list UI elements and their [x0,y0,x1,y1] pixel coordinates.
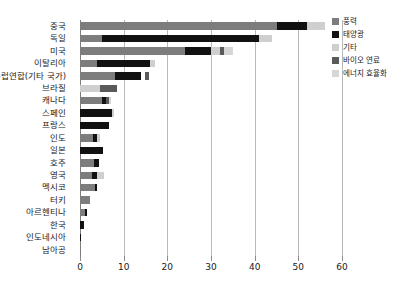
bar-segment [307,22,324,30]
bar-segment [115,72,141,80]
bar-segment [211,47,220,55]
tick-mark [167,256,168,261]
legend-swatch-biofuel [332,57,339,64]
bar-row [80,196,90,204]
bar-segment [80,147,103,155]
bar-row [80,147,103,155]
bar-segment [80,196,90,204]
category-label: 한국 [0,220,66,231]
x-tick-label: 30 [196,262,226,272]
category-label: 독일 [0,33,66,44]
bar-segment [80,22,277,30]
legend-item[interactable]: 바이오 연료 [332,55,387,66]
legend-item[interactable]: 풍력 [332,16,387,27]
tick-mark [342,256,343,261]
bar-segment [224,47,233,55]
bar-row [80,209,87,217]
bar-row [80,184,97,192]
legend-item[interactable]: 태양광 [332,29,387,40]
bar-row [80,134,100,142]
category-label: 캐나다 [0,95,66,106]
bar-row [80,85,117,93]
category-label: 인도 [0,133,66,144]
bar-segment [150,60,155,68]
bar-segment [80,122,109,130]
bar-segment [100,85,117,93]
bar-segment [185,47,211,55]
bar-segment [80,234,81,242]
bar-row [80,35,272,43]
bar-segment [97,172,104,180]
bar-row [80,22,325,30]
legend-swatch-solar [332,31,339,38]
bar-segment [80,134,93,142]
bar-segment [80,97,102,105]
bar-row [80,97,111,105]
x-tick-label: 10 [109,262,139,272]
category-label: 브라질 [0,83,66,94]
bar-row [80,159,99,167]
category-label: 일본 [0,145,66,156]
legend-item[interactable]: 에너지 효율화 [332,68,387,79]
category-label: 터키 [0,195,66,206]
bar-row [80,109,114,117]
legend-label: 풍력 [343,17,357,26]
tick-mark [211,256,212,261]
bar-segment [97,134,100,142]
legend-label: 바이오 연료 [343,56,380,65]
bar-row [80,172,104,180]
gridline [167,20,168,256]
bar-segment [80,85,100,93]
legend-swatch-wind [332,18,339,25]
category-label: 미국 [0,46,66,57]
legend-swatch-efficiency [332,70,339,77]
gridline [211,20,212,256]
tick-mark [80,256,81,261]
gridline [124,20,125,256]
x-tick-label: 0 [65,262,95,272]
category-label: 멕시코 [0,182,66,193]
bar-segment [277,22,308,30]
tick-mark [124,256,125,261]
bar-segment [112,109,114,117]
category-label: 이탈리아 [0,58,66,69]
bar-segment [80,109,112,117]
category-label: 아르헨티나 [0,207,66,218]
chart-legend: 풍력태양광기타바이오 연료에너지 효율화 [332,16,387,81]
bar-segment [102,35,259,43]
bar-segment [80,60,97,68]
bar-segment [259,35,272,43]
x-tick-label: 20 [152,262,182,272]
bar-segment [80,72,115,80]
category-label: 호주 [0,158,66,169]
legend-swatch-other [332,44,339,51]
x-tick-label: 60 [327,262,357,272]
category-label: 중국 [0,21,66,32]
bar-segment [94,159,99,167]
category-label: 유럽연합(기타 국가) [0,71,66,82]
bar-chart: 중국독일미국이탈리아유럽연합(기타 국가)브라질캐나다스페인프랑스인도일본호주영… [0,0,412,296]
bar-row [80,60,155,68]
tick-mark [298,256,299,261]
bar-segment [109,97,111,105]
bar-row [80,221,84,229]
bar-segment [85,209,87,217]
legend-label: 에너지 효율화 [343,69,387,78]
category-label: 스페인 [0,108,66,119]
bar-row [80,122,109,130]
x-tick-label: 40 [240,262,270,272]
bar-segment [80,35,102,43]
legend-item[interactable]: 기타 [332,42,387,53]
x-tick-label: 50 [283,262,313,272]
bar-segment [80,172,92,180]
bar-segment [80,159,94,167]
gridline [255,20,256,256]
tick-mark [255,256,256,261]
category-label: 인도네시아 [0,232,66,243]
category-label: 영국 [0,170,66,181]
bar-row [80,72,149,80]
bar-segment [80,47,185,55]
legend-label: 기타 [343,43,357,52]
plot-area [80,20,342,256]
gridline [298,20,299,256]
